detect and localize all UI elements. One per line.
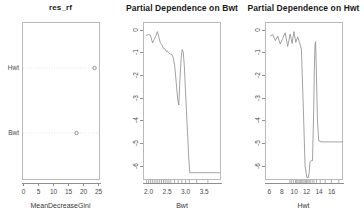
varimp-plot-svg [23,23,101,181]
partial-dependence-curve-bwt [146,32,220,173]
xtick-label-0: 6 [267,188,271,195]
ytick-mark [262,166,265,167]
ytick-label-2: -2 [254,72,261,78]
panel-variable-importance: res_rf Hwt Bwt 0 5 10 15 20 25 MeanD [0,0,121,219]
xtick-mark [98,183,99,186]
ytick-mark [140,143,143,144]
ytick-label-5: -5 [132,140,139,146]
panel-partial-dependence-bwt: Partial Dependence on Bwt 0 -1 -2 -3 -4 … [121,0,243,219]
ytick-label-1: -1 [254,49,261,55]
xaxis-label-varimp: MeanDecreaseGini [0,202,121,209]
xtick-mark [83,183,84,186]
ytick-label-0: 0 [132,28,139,32]
xtick-mark [23,183,24,186]
plot-area-varimp [22,22,100,180]
ytick-mark [262,52,265,53]
xtick-label-1: 8 [280,188,284,195]
xtick-label-1: 2.5 [163,188,172,195]
panel-title-bwt: Partial Dependence on Bwt [121,3,243,13]
ytick-label-3: -3 [254,95,261,101]
panel-title-hwt: Partial Dependence on Hwt [243,3,364,13]
plot-area-hwt [265,22,343,180]
ytick-label-4: -4 [254,117,261,123]
ytick-mark [140,120,143,121]
ytick-mark [262,120,265,121]
ytick-label-5: -5 [254,140,261,146]
ytick-mark [262,98,265,99]
xtick-label-0: 0 [22,188,26,195]
ytick-mark [140,30,143,31]
ytick-label-0: 0 [254,28,261,32]
xtick-label-2: 10 [291,188,298,195]
xtick-mark [38,183,39,186]
r-graphics-figure: res_rf Hwt Bwt 0 5 10 15 20 25 MeanD [0,0,364,219]
ytick-label-hwt: Hwt [8,64,19,71]
xtick-mark [53,183,54,186]
ytick-mark [262,75,265,76]
ytick-label-6: -6 [132,163,139,169]
ytick-label-6: -6 [254,163,261,169]
xtick-label-3: 15 [65,188,72,195]
xtick-label-4: 14 [315,188,322,195]
xtick-label-3: 12 [303,188,310,195]
ytick-mark [262,143,265,144]
ytick-label-2: -2 [132,72,139,78]
ytick-mark [262,30,265,31]
rug-marks-bwt [143,180,222,184]
ytick-label-3: -3 [132,95,139,101]
panel-partial-dependence-hwt: Partial Dependence on Hwt 0 -1 -2 -3 -4 … [243,0,364,219]
xaxis-line-varimp [22,183,101,184]
partial-dependence-curve-hwt [270,32,342,178]
xaxis-label-bwt: Bwt [121,202,243,209]
bwt-plot-svg [144,23,222,181]
plot-area-bwt [143,22,221,180]
ytick-label-1: -1 [132,49,139,55]
xtick-mark [68,183,69,186]
xtick-label-5: 25 [95,188,102,195]
xaxis-label-hwt: Hwt [243,202,364,209]
panel-title-varimp: res_rf [0,3,121,12]
ytick-mark [140,75,143,76]
ytick-mark [140,52,143,53]
xtick-label-3: 3.5 [200,188,209,195]
ytick-label-bwt: Bwt [8,129,19,136]
ytick-mark [140,98,143,99]
xtick-label-1: 5 [37,188,41,195]
ytick-mark [140,166,143,167]
rug-marks-hwt [265,180,344,184]
ytick-label-4: -4 [132,117,139,123]
xtick-label-5: 16 [328,188,335,195]
xtick-label-4: 20 [80,188,87,195]
hwt-plot-svg [266,23,344,181]
xtick-label-0: 2.0 [144,188,153,195]
xtick-label-2: 10 [50,188,57,195]
xtick-label-2: 3.0 [181,188,190,195]
